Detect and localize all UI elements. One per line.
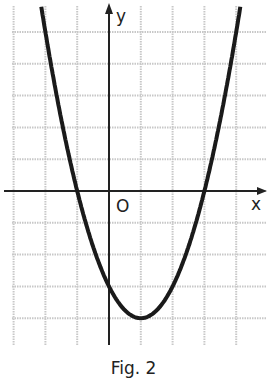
y-axis-arrow-icon	[105, 3, 113, 14]
figure-caption: Fig. 2	[0, 358, 267, 378]
x-axis-label: x	[251, 194, 261, 214]
axes	[4, 3, 267, 345]
y-axis-label: y	[116, 6, 126, 26]
origin-label: O	[116, 196, 129, 216]
